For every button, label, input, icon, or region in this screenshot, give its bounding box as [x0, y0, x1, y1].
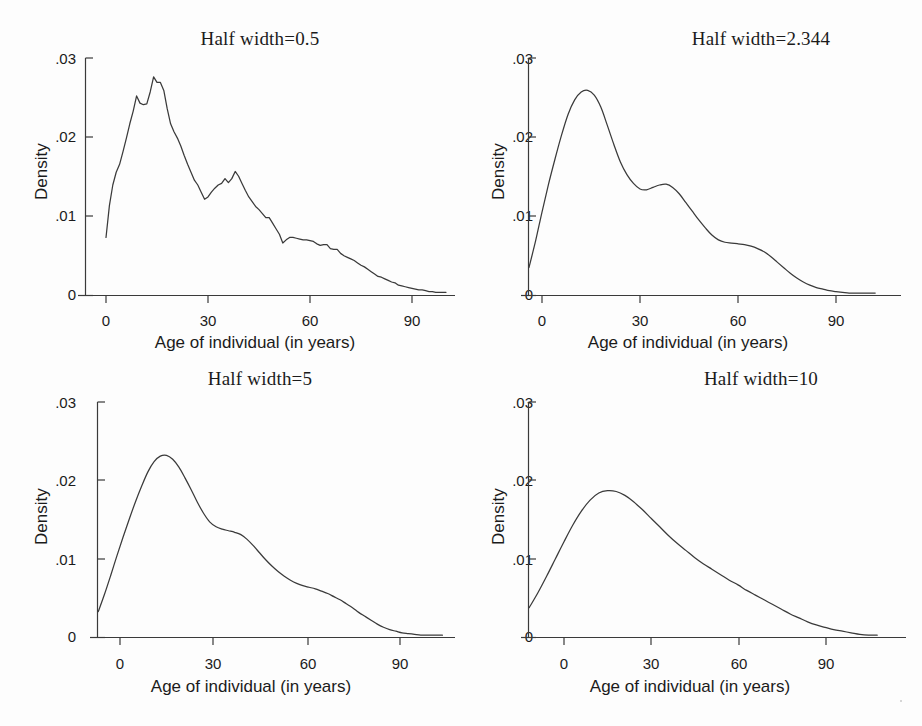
scan-speck [900, 700, 902, 702]
panel-bottom-left: Half width=5 Density .03 .02 .01 0 0 30 … [0, 340, 461, 726]
plot-area-bottom-right [461, 340, 922, 726]
plot-area-bottom-left [0, 340, 461, 726]
axes-top-left [78, 58, 455, 303]
panel-top-left: Half width=0.5 Density .03 .02 .01 0 0 3… [0, 0, 461, 363]
figure-canvas: Half width=0.5 Density .03 .02 .01 0 0 3… [0, 0, 922, 726]
plot-area-top-right [461, 0, 922, 363]
density-curve-top-left [106, 77, 446, 292]
axes-bottom-left [90, 402, 455, 645]
panel-top-right: Half width=2.344 Density .03 .02 .01 0 0… [461, 0, 922, 363]
axes-bottom-right [521, 402, 906, 645]
plot-area-top-left [0, 0, 461, 363]
density-curve-bottom-left [98, 455, 442, 635]
panel-bottom-right: Half width=10 Density .03 .02 .01 0 0 30… [461, 340, 922, 726]
density-curve-top-right [529, 90, 875, 293]
density-curve-bottom-right [529, 491, 877, 636]
